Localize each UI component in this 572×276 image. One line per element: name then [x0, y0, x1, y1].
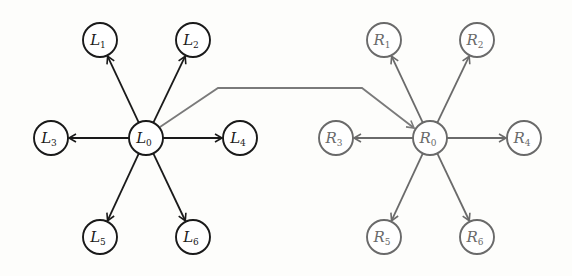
node-l5: L5	[83, 220, 117, 254]
node-r6: R6	[460, 220, 494, 254]
node-r3: R3	[319, 121, 353, 155]
node-r5: R5	[367, 220, 401, 254]
node-l3: L3	[34, 121, 68, 155]
left-star-graph: L0L1L2L3L4L5L6	[34, 23, 257, 254]
node-l0: L0	[129, 121, 163, 155]
node-l6: L6	[176, 220, 210, 254]
node-r1: R1	[367, 23, 401, 57]
edge-r0-r2	[437, 56, 469, 122]
bridge-edge-l0-r0	[160, 88, 414, 128]
edge-r0-r5	[392, 153, 423, 220]
edge-l0-l6	[153, 153, 185, 220]
node-r0: R0	[413, 121, 447, 155]
edge-l0-l1	[108, 56, 139, 122]
node-l2: L2	[176, 23, 210, 57]
node-l1: L1	[83, 23, 117, 57]
node-l4: L4	[223, 121, 257, 155]
bridge-edge-layer	[160, 88, 414, 128]
node-r4: R4	[507, 121, 541, 155]
right-star-graph: R0R1R2R3R4R5R6	[319, 23, 541, 254]
edge-r0-r1	[392, 56, 423, 122]
star-graph-diagram: L0L1L2L3L4L5L6 R0R1R2R3R4R5R6	[0, 0, 572, 276]
edge-l0-l5	[108, 153, 139, 220]
edge-r0-r6	[437, 153, 469, 220]
node-r2: R2	[460, 23, 494, 57]
